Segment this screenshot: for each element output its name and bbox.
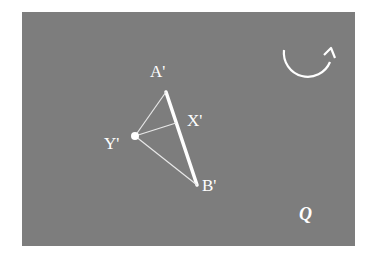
rotation-arrow-icon: [284, 48, 335, 77]
segment-y-a: [135, 92, 166, 136]
label-y-prime: Y': [104, 135, 119, 152]
point-y-dot: [131, 132, 139, 140]
label-x-prime: X': [187, 112, 202, 129]
label-b-prime: B': [202, 177, 216, 194]
label-a-prime: A': [150, 63, 165, 80]
label-plane-q: Q: [299, 205, 312, 223]
segment-y-x: [135, 123, 176, 136]
segment-a-b: [166, 92, 197, 185]
